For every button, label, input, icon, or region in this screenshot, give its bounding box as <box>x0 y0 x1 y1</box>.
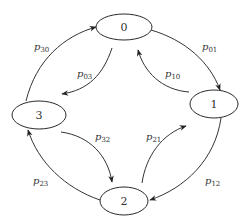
edge-label-01: p01 <box>202 41 217 54</box>
edge-0-1 <box>151 30 220 90</box>
edge-label-32: p32 <box>95 131 110 144</box>
node-3-label: 3 <box>36 109 43 122</box>
edge-label-03: p03 <box>77 68 92 81</box>
node-0-label: 0 <box>121 21 128 34</box>
edge-label-10: p10 <box>165 68 180 81</box>
edge-label-21: p21 <box>146 131 161 144</box>
edge-0-3 <box>62 48 112 94</box>
state-diagram: 0 1 2 3 p30 p01 p03 p10 p32 p21 p23 p12 <box>0 0 248 224</box>
edge-label-30: p30 <box>34 41 49 54</box>
node-1-label: 1 <box>211 98 218 111</box>
node-1: 1 <box>190 90 238 118</box>
edge-2-3 <box>28 130 100 200</box>
node-2-label: 2 <box>121 195 128 208</box>
edge-3-0 <box>26 27 96 101</box>
edge-label-23: p23 <box>33 175 48 188</box>
edge-1-0 <box>138 50 189 92</box>
edge-1-2 <box>150 118 221 200</box>
node-3: 3 <box>12 101 66 129</box>
node-0: 0 <box>96 14 152 40</box>
node-2: 2 <box>100 187 148 215</box>
edge-label-12: p12 <box>205 175 220 188</box>
